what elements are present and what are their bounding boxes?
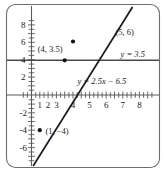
x-tick-label-6: 6: [104, 100, 109, 110]
x-tick-label-1: 1: [38, 100, 43, 110]
chart-canvas: 1 2 3 4 5 6 7 8 8 6 4 2 -2 -4 -6 (5, 6) …: [0, 0, 164, 172]
point-label-1-minus4: (1, −4): [46, 126, 69, 136]
equation-label-y-3point5: y = 3.5: [120, 49, 145, 59]
data-point-4-3point5: [63, 58, 67, 62]
x-tick-label-3: 3: [54, 100, 59, 110]
data-point-1-minus4: [38, 128, 42, 132]
point-label-5-6: (5, 6): [116, 27, 135, 37]
y-tick-label-minus2: -2: [20, 108, 28, 118]
y-tick-label-minus4: -4: [20, 125, 28, 135]
y-tick-label-6: 6: [21, 37, 26, 47]
y-tick-label-2: 2: [21, 72, 26, 82]
y-tick-label-4: 4: [21, 55, 26, 65]
x-tick-label-5: 5: [87, 100, 92, 110]
x-tick-label-4: 4: [71, 100, 76, 110]
point-label-4-3point5: (4, 3.5): [38, 44, 63, 54]
data-point-5-6: [71, 39, 75, 43]
x-tick-label-7: 7: [121, 100, 126, 110]
y-tick-label-8: 8: [21, 20, 26, 30]
y-tick-label-minus6: -6: [20, 143, 28, 153]
x-tick-label-8: 8: [137, 100, 142, 110]
equation-label-line: y = 2.5x − 6.5: [77, 76, 127, 86]
coordinate-plane-figure: 1 2 3 4 5 6 7 8 8 6 4 2 -2 -4 -6 (5, 6) …: [0, 0, 164, 172]
x-tick-label-2: 2: [46, 100, 51, 110]
